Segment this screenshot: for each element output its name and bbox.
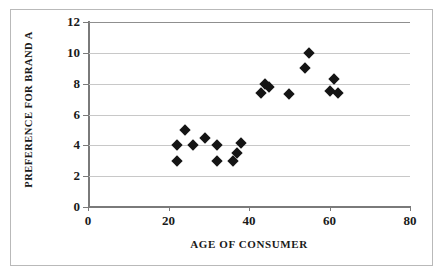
plot-area bbox=[88, 22, 410, 207]
x-axis-title: AGE OF CONSUMER bbox=[88, 238, 410, 250]
data-point bbox=[300, 63, 311, 74]
y-tick-label-6: 6 bbox=[54, 108, 80, 121]
data-point bbox=[211, 155, 222, 166]
data-point bbox=[304, 47, 315, 58]
data-point bbox=[171, 155, 182, 166]
data-point bbox=[211, 140, 222, 151]
y-tick-label-10: 10 bbox=[54, 46, 80, 59]
data-point bbox=[179, 124, 190, 135]
x-tick-label-80: 80 bbox=[390, 214, 430, 227]
x-tick-label-40: 40 bbox=[229, 214, 269, 227]
y-tick-label-2: 2 bbox=[54, 169, 80, 182]
x-tick-label-60: 60 bbox=[310, 214, 350, 227]
data-point bbox=[171, 140, 182, 151]
y-tick-label-0: 0 bbox=[54, 200, 80, 213]
x-tick-label-0: 0 bbox=[68, 214, 108, 227]
data-point bbox=[328, 73, 339, 84]
data-point bbox=[199, 132, 210, 143]
y-tick-label-8: 8 bbox=[54, 77, 80, 90]
data-point bbox=[284, 89, 295, 100]
data-point bbox=[187, 140, 198, 151]
x-tick-mark-80 bbox=[410, 206, 411, 211]
x-tick-label-20: 20 bbox=[149, 214, 189, 227]
scatter-plot-figure: 024681012 020406080 AGE OF CONSUMER PREF… bbox=[0, 0, 444, 278]
y-tick-label-4: 4 bbox=[54, 138, 80, 151]
y-axis-title: PREFERENCE FOR BRAND A bbox=[23, 20, 34, 200]
y-tick-label-12: 12 bbox=[54, 15, 80, 28]
